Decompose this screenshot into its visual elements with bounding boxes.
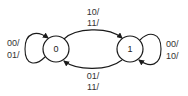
state-0: 0 — [43, 36, 69, 62]
self-loop-1-label-2: 10/ — [166, 51, 179, 61]
transition-0-to-1-arrow — [64, 30, 122, 39]
self-loop-0-label-2: 01/ — [7, 50, 20, 60]
state-1: 1 — [117, 36, 143, 62]
transition-1-to-0-label-1: 01/ — [87, 71, 100, 81]
transition-1-to-0-label-2: 11/ — [87, 82, 99, 92]
self-loop-0-label-1: 00/ — [7, 38, 20, 48]
state-1-label: 1 — [127, 44, 132, 54]
transition-1-to-0-arrow — [64, 60, 122, 68]
state-0-label: 0 — [53, 44, 58, 54]
self-loop-1-label-1: 00/ — [166, 39, 179, 49]
state-diagram: 0 1 10/ 11/ 01/ 11/ 00/ 01/ 00/ 10/ — [0, 0, 188, 96]
transition-0-to-1-label-1: 10/ — [87, 7, 100, 17]
transition-0-to-1-label-2: 11/ — [87, 18, 99, 28]
